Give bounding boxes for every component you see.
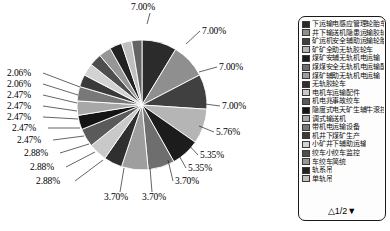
label-leader-line: [60, 144, 89, 153]
legend-color-swatch-icon: [302, 132, 310, 139]
legend-items-list: 下运输电感应管理轮胎车井下输送机隐患运输胶轮车矿运机安全辅助运输轮胎车矿矿全助无…: [302, 20, 384, 183]
legend-item-label: 小矿井下辅助运输: [312, 140, 366, 149]
pie-slice-percent-label: 2.88%: [24, 148, 48, 158]
pie-slice-percent-label: 2.88%: [30, 162, 54, 172]
pie-slices-group: [77, 40, 207, 170]
pie-chart-screenshot: 7.00%7.00%7.00%7.00%5.76%5.35%5.35%3.70%…: [0, 0, 390, 231]
legend-color-swatch-icon: [302, 158, 310, 165]
pie-slice-percent-label: 2.47%: [7, 90, 31, 100]
legend-color-swatch-icon: [302, 46, 310, 53]
label-leader-line: [43, 73, 80, 87]
legend-color-swatch-icon: [302, 38, 310, 45]
legend-item[interactable]: 车绞车简统: [302, 158, 384, 167]
pie-slice-percent-label: 5.35%: [200, 150, 224, 160]
label-leader-line: [43, 95, 77, 103]
legend-color-swatch-icon: [302, 150, 310, 157]
legend-item[interactable]: 隐度式电天矿生辅牛滚控轨: [302, 106, 384, 115]
legend-item-label: 机电兆事故绞车: [312, 97, 360, 106]
pie-chart-area: 7.00%7.00%7.00%7.00%5.76%5.35%5.35%3.70%…: [0, 0, 298, 231]
pie-slice-percent-label: 3.70%: [104, 192, 128, 202]
legend-item-label: 轨系吊: [312, 166, 332, 175]
legend-item-label: 下运输电感应管理轮胎车: [312, 20, 384, 29]
legend-color-swatch-icon: [302, 167, 310, 174]
legend-item-label: 无轨胶轮车: [312, 80, 346, 89]
label-leader-line: [147, 13, 150, 24]
legend-item[interactable]: 无轨胶轮车: [302, 80, 384, 89]
legend-color-swatch-icon: [302, 21, 310, 28]
legend-item[interactable]: 带机电运输设备: [302, 123, 384, 132]
legend-color-swatch-icon: [302, 175, 310, 182]
pie-slice-percent-label: 3.70%: [142, 192, 166, 202]
legend-box[interactable]: 下运输电感应管理轮胎车井下输送机隐患运输胶轮车矿运机安全辅助运输轮胎车矿矿全助无…: [298, 16, 386, 221]
label-leader-line: [120, 168, 124, 192]
legend-item-label: 矿运机安全辅助运输轮胎车: [312, 37, 384, 46]
legend-pager[interactable]: △1/2▼: [299, 206, 385, 216]
legend-item[interactable]: 矿运机安全辅助运输轮胎车: [302, 37, 384, 46]
legend-color-swatch-icon: [302, 115, 310, 122]
pie-slice-percent-label: 7.00%: [131, 2, 155, 12]
legend-item-label: 隐度式电天矿生辅牛滚控轨: [312, 106, 384, 115]
legend-color-swatch-icon: [302, 72, 310, 79]
legend-item[interactable]: 下运输电感应管理轮胎车: [302, 20, 384, 29]
pie-slice-percent-label: 2.47%: [12, 123, 36, 133]
legend-color-swatch-icon: [302, 141, 310, 148]
label-leader-line: [150, 168, 152, 192]
label-leader-line: [43, 106, 77, 111]
pie-slice-percent-label: 2.47%: [7, 112, 31, 122]
label-leader-line: [75, 160, 103, 181]
pie-slice-percent-label: 2.06%: [7, 79, 31, 89]
legend-item[interactable]: 煤矿安辅无轨机电运输: [302, 54, 384, 63]
legend-item-label: 车绞车简统: [312, 158, 346, 167]
pie-slice-percent-label: 2.47%: [7, 101, 31, 111]
label-leader-line: [66, 152, 95, 167]
pie-slice-percent-label: 2.06%: [7, 68, 31, 78]
legend-item[interactable]: 单轨吊: [302, 175, 384, 184]
label-leader-line: [186, 31, 200, 44]
legend-item[interactable]: 小矿井下辅助运输: [302, 140, 384, 149]
legend-color-swatch-icon: [302, 64, 310, 71]
legend-color-swatch-icon: [302, 98, 310, 105]
pie-slice-percent-label: 7.00%: [202, 26, 226, 36]
pie-slice-percent-label: 7.00%: [222, 101, 246, 111]
legend-color-swatch-icon: [302, 29, 310, 36]
legend-item[interactable]: 煤矿辅助无轨机电运输: [302, 72, 384, 81]
pie-slice-percent-label: 7.00%: [219, 62, 243, 72]
legend-color-swatch-icon: [302, 55, 310, 62]
legend-item[interactable]: 机电兆事故绞车: [302, 97, 384, 106]
legend-item[interactable]: 轨系吊: [302, 166, 384, 175]
pie-slice-percent-label: 2.88%: [36, 176, 60, 186]
legend-color-swatch-icon: [302, 89, 310, 96]
pie-slice-percent-label: 5.35%: [188, 163, 212, 173]
legend-item[interactable]: 煤煤安全无轨机电运输配件: [302, 63, 384, 72]
label-leader-line: [199, 67, 217, 72]
pie-slice-percent-label: 5.76%: [216, 127, 240, 137]
legend-item-label: 单轨吊: [312, 175, 332, 184]
legend-color-swatch-icon: [302, 81, 310, 88]
legend-item-label: 煤矿安辅无轨机电运输: [312, 54, 380, 63]
label-leader-line: [43, 84, 78, 95]
legend-item-label: 带机电运输设备: [312, 123, 360, 132]
label-leader-line: [53, 136, 84, 140]
pie-slice-percent-label: 3.70%: [175, 176, 199, 186]
legend-item[interactable]: 绞车小绞车监控: [302, 149, 384, 158]
legend-color-swatch-icon: [302, 107, 310, 114]
legend-pager-label[interactable]: △1/2▼: [328, 206, 356, 216]
legend-color-swatch-icon: [302, 124, 310, 131]
label-leader-line: [43, 117, 78, 119]
legend-item-label: 煤煤安全无轨机电运输配件: [312, 63, 384, 72]
legend-item[interactable]: 井下输送机隐患运输胶轮车: [302, 29, 384, 38]
pie-slice-percent-label: 2.47%: [17, 135, 41, 145]
legend-item-label: 绞车小绞车监控: [312, 149, 360, 158]
legend-item[interactable]: 调式输送机: [302, 115, 384, 124]
